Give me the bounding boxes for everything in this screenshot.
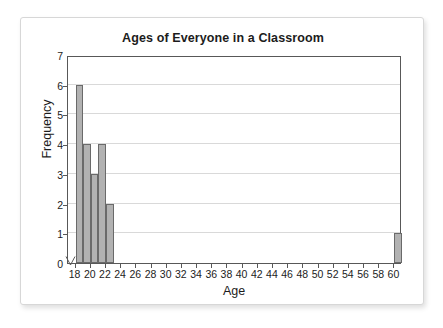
y-tick-label: 1 <box>47 228 63 240</box>
y-tick-label: 7 <box>47 50 63 62</box>
bar <box>91 174 99 263</box>
bar <box>394 233 402 263</box>
x-tick-label: 60 <box>382 268 404 280</box>
y-tick-label: 5 <box>47 109 63 121</box>
y-tick-label: 2 <box>47 199 63 211</box>
y-tick-label: 0 <box>47 258 63 270</box>
gridline <box>68 84 400 85</box>
y-tick-label: 3 <box>47 169 63 181</box>
plot-area <box>67 56 401 264</box>
bar <box>83 144 91 263</box>
y-tick-label: 4 <box>47 139 63 151</box>
figure-root: Ages of Everyone in a Classroom Frequenc… <box>0 0 443 328</box>
gridline <box>68 232 400 233</box>
bar <box>106 204 114 263</box>
chart-card: Ages of Everyone in a Classroom Frequenc… <box>20 17 424 305</box>
y-tick-label: 6 <box>47 80 63 92</box>
chart-title: Ages of Everyone in a Classroom <box>21 31 425 45</box>
gridline <box>68 203 400 204</box>
y-axis-tick-labels: 01234567 <box>43 56 63 264</box>
x-axis-tick-labels: 1820222426283032343638404244464850525456… <box>67 268 401 282</box>
gridline <box>68 113 400 114</box>
gridline <box>68 173 400 174</box>
x-axis-label: Age <box>67 284 401 298</box>
bar <box>76 85 84 263</box>
gridline <box>68 143 400 144</box>
bar <box>98 144 106 263</box>
